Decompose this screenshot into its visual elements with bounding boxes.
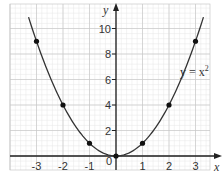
x-axis-label: x	[213, 160, 220, 174]
data-point	[87, 141, 92, 146]
data-point	[34, 39, 39, 44]
y-tick-label: 10	[99, 23, 111, 35]
x-tick-label: 0	[106, 155, 112, 167]
x-tick-label: -2	[58, 160, 68, 172]
y-tick-label: 2	[105, 125, 111, 137]
x-tick-label: -3	[32, 160, 42, 172]
equation-label: y = x2	[180, 64, 209, 79]
y-tick-label: 6	[105, 74, 111, 86]
parabola-chart: -3-2-10123246810 x y y = x2	[0, 0, 224, 174]
equation-base: y = x	[180, 65, 205, 79]
x-tick-label: 2	[166, 160, 172, 172]
y-tick-label: 8	[105, 48, 111, 60]
equation-exponent: 2	[205, 64, 209, 73]
x-tick-label: 1	[139, 160, 145, 172]
x-tick-label: -1	[85, 160, 95, 172]
data-point	[140, 141, 145, 146]
y-tick-label: 4	[105, 99, 111, 111]
y-axis-label: y	[102, 3, 109, 17]
data-point	[166, 102, 171, 107]
data-point	[193, 39, 198, 44]
x-tick-label: 3	[192, 160, 198, 172]
data-point	[113, 153, 118, 158]
data-point	[60, 102, 65, 107]
